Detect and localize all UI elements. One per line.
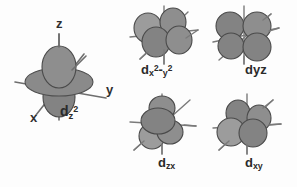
axis-horizontal-tip (269, 124, 281, 125)
lobe-lower-right (239, 119, 267, 147)
orbital-label-dx2-y2-main: d (141, 62, 149, 77)
orbital-dx2-y2 (128, 4, 200, 66)
orbital-label-dyz-sub: yz (253, 62, 267, 77)
orbital-label-dzx-sub: zx (166, 161, 175, 171)
lobe-lower-right (243, 33, 271, 61)
axis-diagonal-tip2 (263, 100, 273, 108)
axis-diagonal-tip (140, 52, 148, 59)
lobe-z-positive (42, 46, 76, 88)
orbital-label-dxy-sub: xy (253, 161, 263, 171)
orbital-label-dz2: dz2 (60, 103, 78, 121)
axis-label-y: y (106, 82, 113, 97)
orbital-label-dz2-main: d (60, 103, 69, 119)
axis-label-z: z (56, 16, 63, 31)
orbital-label-dyz-main: d (245, 62, 253, 77)
orbital-label-dyz: dyz (245, 62, 267, 77)
orbital-dzx (128, 92, 200, 156)
orbital-dx2-y2-graphic (128, 4, 200, 66)
orbital-dxy (211, 92, 283, 156)
d-orbital-diagram: z y x dz2 dx2-y2 (0, 0, 297, 187)
orbital-label-dz2-sup: 2 (73, 104, 78, 114)
orbital-label-dx2-y2-sup2: 2 (168, 63, 173, 73)
orbital-dzx-graphic (128, 92, 200, 156)
orbital-label-dzx-main: d (158, 155, 166, 170)
axis-label-x: x (30, 110, 37, 125)
lobe-lower-right (166, 26, 192, 54)
orbital-dyz-graphic (211, 4, 283, 66)
lobe-lower-left (218, 33, 244, 59)
lobe-center (141, 108, 175, 134)
orbital-dxy-graphic (211, 92, 283, 156)
orbital-label-dxy-main: d (245, 155, 253, 170)
orbital-dyz (211, 4, 283, 66)
orbital-label-dzx: dzx (158, 155, 175, 171)
orbital-label-dx2-y2: dx2-y2 (141, 62, 172, 78)
axis-horizontal-tip (184, 125, 196, 126)
orbital-label-dxy: dxy (245, 155, 263, 171)
